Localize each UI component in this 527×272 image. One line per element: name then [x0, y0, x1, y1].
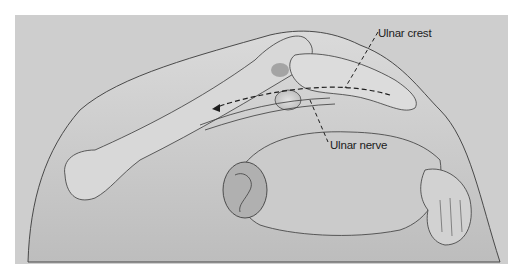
label-ulnar-crest: Ulnar crest — [378, 27, 431, 39]
label-ulnar-nerve: Ulnar nerve — [330, 139, 387, 151]
elbow-drawing — [15, 15, 508, 264]
anatomical-illustration — [15, 15, 508, 264]
